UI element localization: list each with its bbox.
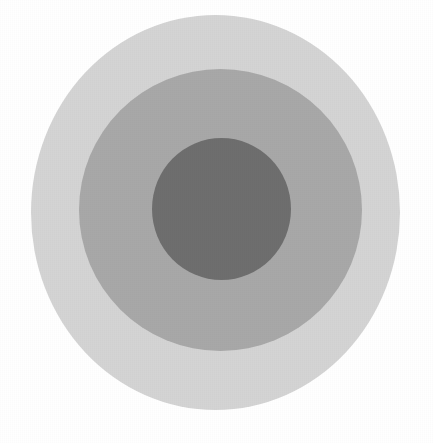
concentric-circles-figure bbox=[0, 0, 433, 443]
inner-circle-shape bbox=[152, 138, 291, 280]
figure-canvas bbox=[0, 0, 433, 443]
